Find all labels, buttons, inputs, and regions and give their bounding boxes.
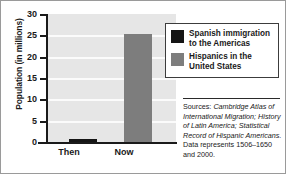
sources-block: Sources: Cambridge Atlas of Internationa… (183, 98, 283, 159)
gridline-15 (48, 78, 176, 80)
y-tick-label-0: 0 (15, 137, 37, 147)
plot-area (48, 14, 176, 142)
y-tick-label-25: 25 (15, 30, 37, 40)
y-tick-label-10: 10 (15, 94, 37, 104)
legend-item-hispanics-us: Hispanics in the United States (171, 52, 274, 71)
gridline-10 (48, 99, 176, 101)
tick-mark-15 (40, 78, 47, 80)
tick-mark-10 (40, 99, 47, 101)
bar-chart-figure: Population (in millions) 30 25 20 15 10 … (0, 0, 286, 174)
legend-item-spanish-immigration: Spanish immigration to the Americas (171, 29, 274, 48)
gridline-20 (48, 57, 176, 59)
sources-note: Data represents 1506–1650 and 2000. (183, 140, 272, 159)
chart-legend: Spanish immigration to the Americas Hisp… (165, 23, 279, 78)
sources-prefix: Sources: (183, 102, 211, 111)
legend-label-hispanics-us: Hispanics in the United States (189, 52, 252, 71)
legend-label-spanish-immigration: Spanish immigration to the Americas (189, 29, 270, 48)
tick-mark-30 (40, 14, 47, 16)
y-axis-title: Population (in millions) (14, 0, 24, 129)
tick-mark-20 (40, 57, 47, 59)
bar-now (124, 34, 152, 142)
legend-label-line2: to the Americas (189, 39, 270, 49)
legend-swatch-gray-icon (171, 53, 184, 66)
x-axis-line (38, 142, 177, 144)
y-tick-label-15: 15 (15, 73, 37, 83)
tick-mark-5 (40, 121, 47, 123)
sources-divider (183, 98, 280, 99)
legend-swatch-black-icon (171, 30, 184, 43)
x-category-label-now: Now (94, 147, 154, 157)
gridline-25 (48, 35, 176, 37)
tick-mark-25 (40, 35, 47, 37)
x-category-label-then: Then (39, 147, 99, 157)
sources-text: Sources: Cambridge Atlas of Internationa… (183, 102, 283, 159)
legend-label-line1: Spanish immigration (189, 29, 270, 39)
gridline-5 (48, 121, 176, 123)
y-tick-label-30: 30 (15, 9, 37, 19)
legend-label-line2: United States (189, 62, 252, 72)
y-tick-label-5: 5 (15, 116, 37, 126)
legend-label-line1: Hispanics in the (189, 52, 252, 62)
y-tick-label-20: 20 (15, 52, 37, 62)
